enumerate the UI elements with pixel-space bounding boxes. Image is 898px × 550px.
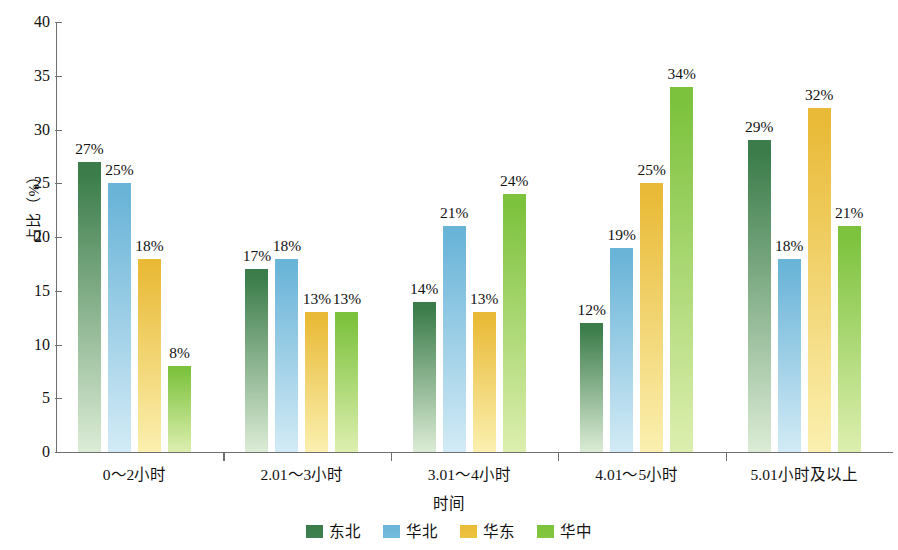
y-tick-label: 35 [16, 68, 50, 84]
bar-value-label: 25% [95, 162, 144, 178]
legend-item[interactable]: 华东 [460, 524, 515, 540]
bar-value-label: 13% [460, 291, 509, 307]
bar [413, 302, 436, 453]
legend-swatch-icon [537, 525, 554, 538]
bar [443, 226, 466, 452]
x-tick-mark [223, 453, 224, 461]
bar-value-label: 14% [400, 281, 449, 297]
bar [580, 323, 603, 452]
bar-value-label: 18% [765, 238, 814, 254]
legend-item[interactable]: 华中 [537, 524, 592, 540]
x-tick-mark [391, 453, 392, 461]
x-category-label: 5.01小时及以上 [719, 462, 889, 484]
bar [640, 183, 663, 452]
bar [78, 162, 101, 452]
y-tick-label: 15 [16, 283, 50, 299]
bar [838, 226, 861, 452]
bar-value-label: 32% [795, 87, 844, 103]
y-tick-label: 10 [16, 337, 50, 353]
bar [168, 366, 191, 452]
bar-value-label: 12% [567, 302, 616, 318]
legend-label: 华中 [560, 524, 592, 540]
bar [610, 248, 633, 452]
y-tick-label: 0 [16, 444, 50, 460]
legend-item[interactable]: 华北 [383, 524, 438, 540]
bar [778, 259, 801, 453]
legend-swatch-icon [383, 525, 400, 538]
bar-value-label: 29% [735, 119, 784, 135]
bar [245, 269, 268, 452]
x-tick-mark [558, 453, 559, 461]
legend-swatch-icon [460, 525, 477, 538]
bar-value-label: 18% [125, 238, 174, 254]
y-tick-label: 25 [16, 175, 50, 191]
x-category-label: 4.01～5小时 [552, 462, 722, 484]
bar [808, 108, 831, 452]
x-category-label: 2.01～3小时 [217, 462, 387, 484]
x-axis-line [56, 452, 893, 453]
bar-value-label: 21% [430, 205, 479, 221]
x-category-label: 3.01～4小时 [384, 462, 554, 484]
chart-legend: 东北华北华东华中 [0, 524, 898, 540]
x-axis-title: 时间 [0, 491, 898, 513]
bar [108, 183, 131, 452]
x-tick-mark [726, 453, 727, 461]
y-axis-ticks: 0510152025303540 [6, 0, 50, 550]
plot-area: 27%25%18%8%17%18%13%13%14%21%13%24%12%19… [56, 22, 893, 452]
bar-value-label: 34% [657, 66, 706, 82]
y-tick-label: 5 [16, 390, 50, 406]
bar-value-label: 18% [262, 238, 311, 254]
bar [748, 140, 771, 452]
bar [503, 194, 526, 452]
bar-value-label: 24% [490, 173, 539, 189]
bar-value-label: 8% [155, 345, 204, 361]
legend-label: 华北 [406, 524, 438, 540]
bar-value-label: 21% [825, 205, 874, 221]
y-tick-label: 20 [16, 229, 50, 245]
bar [335, 312, 358, 452]
bar-value-label: 19% [597, 227, 646, 243]
y-tick-label: 30 [16, 122, 50, 138]
legend-label: 东北 [329, 524, 361, 540]
legend-item[interactable]: 东北 [306, 524, 361, 540]
bar [305, 312, 328, 452]
bar-value-label: 27% [65, 141, 114, 157]
bar-value-label: 25% [627, 162, 676, 178]
y-tick-label: 40 [16, 14, 50, 30]
legend-label: 华东 [483, 524, 515, 540]
bar [473, 312, 496, 452]
x-category-label: 0～2小时 [50, 462, 220, 484]
legend-swatch-icon [306, 525, 323, 538]
bar [670, 87, 693, 453]
bar-chart: 占比（%） 0510152025303540 27%25%18%8%17%18%… [0, 0, 898, 550]
bar-value-label: 13% [322, 291, 371, 307]
bar [275, 259, 298, 453]
